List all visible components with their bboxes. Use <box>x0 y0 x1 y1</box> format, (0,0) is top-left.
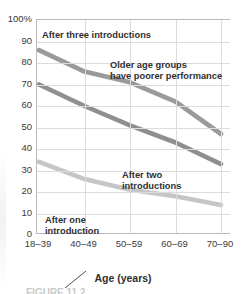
plot-area <box>36 19 230 234</box>
gridline-vertical <box>130 20 131 233</box>
gridline-horizontal <box>37 149 230 150</box>
gridline-vertical <box>85 20 86 233</box>
figure-caption-partial: FIGURE 11.2 <box>26 287 85 294</box>
annotation-after-three-introductions: After three introductions <box>42 30 151 41</box>
x-axis-tick-4: 70–90 <box>197 239 243 249</box>
gridline-horizontal <box>37 128 230 129</box>
y-axis-tick-60: 60 <box>0 100 32 110</box>
annotation-after-one-introduction: After one introduction <box>45 215 99 237</box>
gridline-horizontal <box>37 85 230 86</box>
annotation-insight-older-age-groups: Older age groups have poorer performance <box>110 60 222 82</box>
gridline-horizontal <box>37 42 230 43</box>
x-axis-title: Age (years) <box>0 272 246 284</box>
y-axis-tick-40: 40 <box>0 143 32 153</box>
y-axis-tick-30: 30 <box>0 165 32 175</box>
y-axis-tick-10: 10 <box>0 208 32 218</box>
figure-container: 0102030405060708090100% 18–3940–4950–596… <box>0 0 246 294</box>
x-axis-tick-3: 60–69 <box>152 239 198 249</box>
plot-area-wrapper <box>36 19 230 234</box>
x-axis-tick-1: 40–49 <box>61 239 107 249</box>
y-axis-tick-80: 80 <box>0 57 32 67</box>
annotation-after-two-introductions: After two introductions <box>122 170 181 192</box>
x-axis-tick-0: 18–39 <box>15 239 61 249</box>
gridline-horizontal <box>37 106 230 107</box>
y-axis-tick-50: 50 <box>0 122 32 132</box>
gridline-vertical <box>176 20 177 233</box>
y-axis-tick-100pct: 100% <box>0 14 32 24</box>
y-axis-tick-20: 20 <box>0 186 32 196</box>
x-axis-tick-2: 50–59 <box>106 239 152 249</box>
y-axis-tick-70: 70 <box>0 79 32 89</box>
y-axis-tick-90: 90 <box>0 36 32 46</box>
gridline-vertical <box>221 20 222 233</box>
gridline-horizontal <box>37 192 230 193</box>
